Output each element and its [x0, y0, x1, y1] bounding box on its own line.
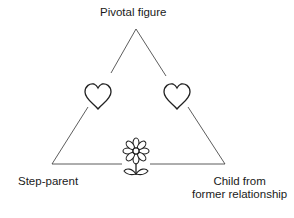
node-label-child-line1: Child from: [192, 175, 287, 188]
edge-left-lower: [52, 107, 88, 164]
node-label-pivotal-figure: Pivotal figure: [100, 6, 166, 19]
node-label-child: Child from former relationship: [192, 175, 287, 201]
heart-icon: [164, 84, 190, 109]
node-label-step-parent: Step-parent: [18, 175, 78, 188]
edge-right-upper: [136, 29, 166, 76]
heart-icon: [85, 84, 111, 109]
node-label-child-line2: former relationship: [192, 188, 287, 201]
flower-icon: [123, 138, 149, 175]
edge-left-upper: [111, 29, 136, 73]
edge-right-lower: [188, 107, 225, 164]
